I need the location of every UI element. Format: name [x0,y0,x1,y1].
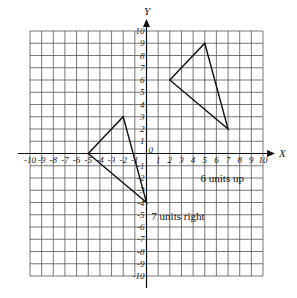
axes [18,19,275,288]
y-tick-label: -7 [137,234,145,244]
annotation-label: 6 units up [201,172,245,184]
y-tick-label: -5 [137,210,145,220]
x-tick-label: -7 [61,155,69,165]
y-tick-label: -6 [137,222,145,232]
x-tick-label: -2 [119,155,127,165]
y-tick-label: -9 [137,259,145,269]
y-tick-label: 6 [140,75,145,85]
annotations: 6 units up7 units right [151,172,244,222]
y-tick-label: 1 [140,136,145,146]
y-tick-label: 7 [140,63,145,73]
y-tick-label: 2 [140,124,145,134]
x-tick-label: -10 [24,155,36,165]
x-tick-label: -8 [50,155,58,165]
x-tick-label: 8 [237,155,242,165]
y-tick-label: -8 [137,247,145,257]
y-tick-label: -10 [133,271,145,281]
y-axis-label: Y [144,5,152,17]
y-tick-label: 3 [139,112,145,122]
y-tick-label: 5 [140,87,145,97]
x-tick-label: -3 [108,155,116,165]
x-tick-label: 9 [249,155,254,165]
x-tick-label: 6 [214,155,219,165]
y-tick-label: 9 [140,38,145,48]
x-tick-label: 5 [203,155,208,165]
x-axis-label: X [278,147,287,159]
x-tick-label: 4 [191,155,196,165]
y-tick-label: 4 [140,100,145,110]
y-tick-label: 8 [140,51,145,61]
coordinate-plane: -10-9-8-7-6-5-4-3-2-11234567891010987654… [0,0,297,298]
y-tick-label: -4 [137,198,145,208]
x-tick-label: -6 [73,155,81,165]
x-tick-label: 10 [259,155,269,165]
translated-triangle [170,43,228,129]
annotation-label: 7 units right [151,210,204,222]
origin-label: 0 [149,145,154,155]
y-tick-label: 10 [136,26,146,36]
x-tick-label: 2 [168,155,173,165]
x-tick-label: 3 [178,155,184,165]
x-tick-label: -9 [38,155,46,165]
x-axis-arrow-icon [267,150,275,157]
x-tick-label: 1 [156,155,161,165]
x-tick-label: 7 [226,155,231,165]
